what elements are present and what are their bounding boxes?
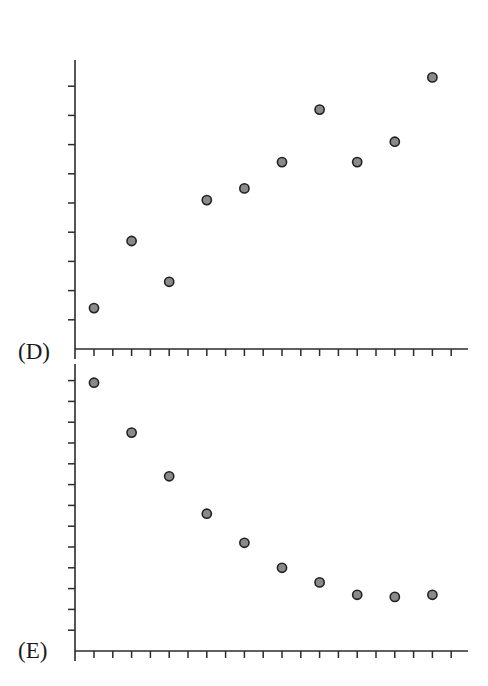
data-point-d (202, 196, 211, 205)
data-point-e (315, 578, 324, 587)
data-point-e (240, 538, 249, 547)
data-point-d (277, 158, 286, 167)
data-point-e (428, 590, 437, 599)
scatter-plot-d (0, 0, 488, 686)
panel-label-d: (D) (18, 340, 50, 363)
data-point-e (165, 472, 174, 481)
data-point-d (127, 236, 136, 245)
data-point-e (353, 590, 362, 599)
data-point-e (89, 378, 98, 387)
data-point-d (390, 137, 399, 146)
data-point-d (89, 304, 98, 313)
data-point-e (390, 592, 399, 601)
data-point-d (315, 105, 324, 114)
data-point-e (127, 428, 136, 437)
panel-label-e: (E) (18, 639, 47, 662)
data-point-d (165, 277, 174, 286)
chart-figure: (D) (E) (0, 0, 488, 686)
data-point-d (240, 184, 249, 193)
data-point-d (353, 158, 362, 167)
data-point-e (277, 563, 286, 572)
data-point-d (428, 73, 437, 82)
data-point-e (202, 509, 211, 518)
